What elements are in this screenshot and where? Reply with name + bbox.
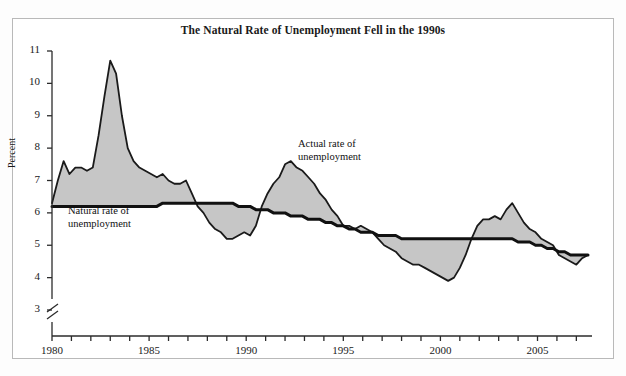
- x-tick-label: 1990: [223, 344, 269, 356]
- y-tick-label: 5: [20, 237, 40, 249]
- y-tick-label: 10: [20, 75, 40, 87]
- actual-rate-annotation: Actual rate of unemployment: [298, 138, 361, 163]
- y-tick-label: 6: [20, 205, 40, 217]
- y-tick-label: 8: [20, 140, 40, 152]
- y-tick-label: 4: [20, 270, 40, 282]
- natural-rate-annotation: Natural rate of unemployment: [68, 205, 131, 230]
- x-tick-label: 1995: [320, 344, 366, 356]
- y-tick-label: 3: [20, 302, 40, 314]
- x-tick-label: 2000: [417, 344, 463, 356]
- chart-figure: The Natural Rate of Unemployment Fell in…: [0, 0, 626, 376]
- x-tick-label: 1980: [29, 344, 75, 356]
- plot-area: [0, 0, 626, 376]
- y-tick-label: 7: [20, 173, 40, 185]
- x-tick-label: 2005: [515, 344, 561, 356]
- y-tick-label: 9: [20, 108, 40, 120]
- area-fill-layer: [52, 61, 588, 281]
- y-tick-label: 11: [20, 43, 40, 55]
- x-tick-label: 1985: [126, 344, 172, 356]
